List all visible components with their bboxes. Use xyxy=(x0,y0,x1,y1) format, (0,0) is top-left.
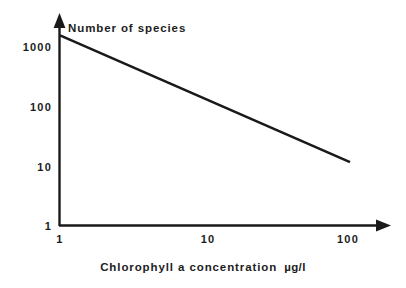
x-tick-label-100: 100 xyxy=(318,233,378,245)
x-axis-units: µg/l xyxy=(284,261,306,273)
y-tick-label-1: 1 xyxy=(0,220,52,232)
y-axis-title: Number of species xyxy=(68,22,186,35)
y-tick-label-10: 10 xyxy=(0,161,52,173)
x-axis-title: Chlorophyll a concentrationµg/l xyxy=(0,261,406,274)
x-axis-title-text: Chlorophyll a concentration xyxy=(100,261,277,273)
x-axis-arrowhead-icon xyxy=(376,219,391,231)
y-axis-arrowhead-icon xyxy=(54,13,66,28)
x-tick-label-1: 1 xyxy=(30,233,90,245)
x-tick-label-10: 10 xyxy=(178,233,238,245)
data-series-line xyxy=(60,35,350,162)
y-tick-label-1000: 1000 xyxy=(0,41,52,53)
y-tick-label-100: 100 xyxy=(0,101,52,113)
chart-figure: 1000 100 10 1 1 10 100 Number of species… xyxy=(0,0,406,288)
